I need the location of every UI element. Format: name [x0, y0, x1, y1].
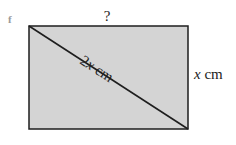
unknown-length-label: ?: [100, 8, 114, 25]
width-label: x cm: [194, 66, 223, 83]
part-label: f: [8, 13, 12, 25]
width-variable: x: [194, 66, 201, 82]
width-unit: cm: [204, 66, 222, 82]
